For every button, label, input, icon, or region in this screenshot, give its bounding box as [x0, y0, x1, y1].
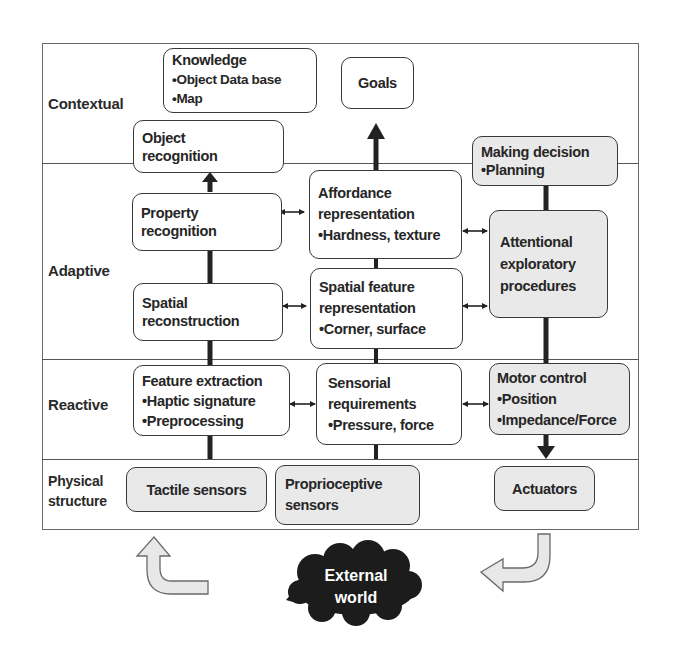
box-goals: Goals: [341, 57, 414, 109]
box-title: exploratory: [500, 253, 599, 275]
box-knowledge: Knowledge •Object Data base •Map: [163, 48, 317, 113]
box-title: Making decision: [481, 143, 609, 161]
layer-label-text: Physical: [48, 471, 107, 491]
box-sensorial-requirements: Sensorial requirements •Pressure, force: [316, 363, 462, 445]
box-bullet: •Impedance/Force: [497, 410, 621, 431]
divider-reactive-physical: [42, 459, 639, 460]
box-property-recognition: Property recognition: [132, 193, 282, 251]
box-title: Spatial feature: [319, 277, 454, 298]
box-title: Feature extraction: [142, 371, 281, 391]
box-spatial-feature-representation: Spatial feature representation •Corner, …: [310, 268, 463, 349]
box-bullet: •Map: [172, 89, 308, 108]
box-title: Spatial: [142, 294, 274, 312]
box-spatial-reconstruction: Spatial reconstruction: [133, 283, 283, 341]
box-title: Object: [142, 129, 275, 147]
cloud-text-line: External: [306, 565, 406, 587]
box-bullet: •Position: [497, 389, 621, 410]
external-world-label: External world: [306, 565, 406, 609]
block-arrow-actuators-to-world-icon: [481, 534, 550, 591]
box-title: Attentional: [500, 231, 599, 253]
box-title: procedures: [500, 275, 599, 297]
box-title: Actuators: [512, 480, 577, 498]
layer-label-contextual: Contextual: [48, 95, 124, 113]
box-bullet: •Object Data base: [172, 70, 308, 89]
layer-label-adaptive: Adaptive: [48, 262, 110, 280]
box-bullet: •Corner, surface: [319, 319, 454, 340]
box-actuators: Actuators: [494, 466, 595, 511]
divider-adaptive-reactive: [42, 359, 639, 360]
box-title: requirements: [328, 394, 453, 415]
layer-label-text: structure: [48, 491, 107, 511]
box-making-decision: Making decision •Planning: [472, 136, 618, 186]
box-bullet: •Hardness, texture: [318, 225, 453, 246]
box-title: Knowledge: [172, 51, 308, 70]
block-arrow-world-to-sensors-icon: [137, 537, 208, 594]
box-title: Property: [141, 204, 273, 222]
box-title: representation: [318, 204, 453, 225]
box-motor-control: Motor control •Position •Impedance/Force: [489, 363, 630, 435]
box-title: sensors: [285, 495, 411, 516]
box-title: Sensorial: [328, 373, 453, 394]
box-title: Tactile sensors: [146, 481, 246, 499]
box-tactile-sensors: Tactile sensors: [126, 467, 267, 512]
box-title: Proprioceptive: [285, 474, 411, 495]
box-title: Affordance: [318, 183, 453, 204]
cloud-text-line: world: [306, 587, 406, 609]
box-feature-extraction: Feature extraction •Haptic signature •Pr…: [133, 365, 290, 436]
box-title: representation: [319, 298, 454, 319]
box-title: reconstruction: [142, 312, 274, 330]
layer-label-text: Reactive: [48, 396, 108, 413]
box-affordance-representation: Affordance representation •Hardness, tex…: [309, 170, 462, 259]
box-title: Motor control: [497, 368, 621, 389]
box-title: Goals: [358, 74, 397, 92]
layer-label-physical: Physical structure: [48, 471, 107, 511]
box-attentional-exploratory-procedures: Attentional exploratory procedures: [489, 210, 608, 318]
box-bullet: •Haptic signature: [142, 391, 281, 411]
layer-label-reactive: Reactive: [48, 396, 108, 414]
box-proprioceptive-sensors: Proprioceptive sensors: [275, 465, 420, 525]
layer-label-text: Contextual: [48, 95, 124, 112]
box-bullet: •Pressure, force: [328, 415, 453, 436]
box-title: recognition: [142, 147, 275, 165]
box-bullet: •Planning: [481, 161, 609, 179]
layer-label-text: Adaptive: [48, 262, 110, 279]
box-bullet: •Preprocessing: [142, 411, 281, 431]
box-object-recognition: Object recognition: [133, 120, 284, 173]
box-title: recognition: [141, 222, 273, 240]
